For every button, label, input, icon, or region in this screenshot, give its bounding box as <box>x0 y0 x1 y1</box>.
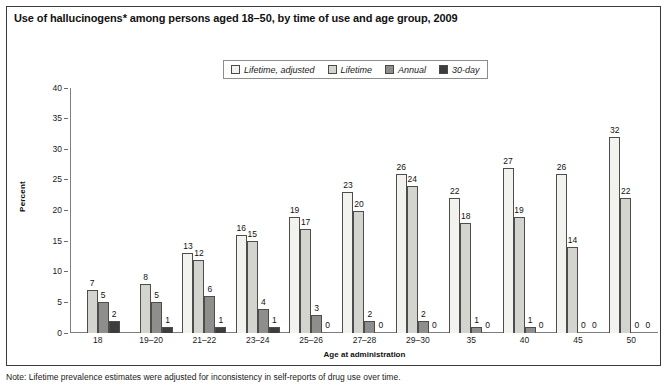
y-tick-mark <box>64 271 68 272</box>
bar-group: 261400 <box>551 88 604 333</box>
bar[interactable]: 20 <box>353 211 364 334</box>
bar-value-label: 15 <box>248 230 257 239</box>
bar-value-label: 1 <box>272 316 277 325</box>
bar[interactable]: 2 <box>418 321 429 333</box>
bar[interactable]: 26 <box>396 174 407 333</box>
x-tick-label: 45 <box>551 335 604 345</box>
chart-footnote: Note: Lifetime prevalence estimates were… <box>6 372 656 383</box>
bar[interactable]: 24 <box>407 186 418 333</box>
bar[interactable]: 15 <box>247 241 258 333</box>
x-tick-label: 40 <box>498 335 551 345</box>
bar-value-label: 18 <box>461 212 470 221</box>
bar-value-label: 23 <box>343 181 352 190</box>
bar-value-label: 24 <box>408 175 417 184</box>
y-axis-title: Percent <box>18 167 27 227</box>
chart-legend: Lifetime, adjustedLifetimeAnnual30-day <box>223 60 488 79</box>
bar[interactable]: 19 <box>289 217 300 333</box>
bar[interactable]: 5 <box>98 302 109 333</box>
bar[interactable]: 19 <box>514 217 525 333</box>
bar-group: 131261 <box>178 88 231 333</box>
bar-value-label: 16 <box>237 224 246 233</box>
x-tick-label: 25–26 <box>284 335 337 345</box>
x-axis-title: Age at administration <box>71 350 658 359</box>
bar-group: 161541 <box>231 88 284 333</box>
bar-group: 191730 <box>284 88 337 333</box>
bar-value-label: 20 <box>354 200 363 209</box>
bar[interactable]: 5 <box>151 302 162 333</box>
bar[interactable]: 8 <box>140 284 151 333</box>
bar-value-label: 0 <box>645 321 650 330</box>
bar-value-label: 1 <box>219 316 224 325</box>
x-axis-tick-labels: 1819–2021–2223–2425–2627–2829–3035404550 <box>71 335 658 345</box>
bar-value-label: 19 <box>514 206 523 215</box>
y-tick-mark <box>64 118 68 119</box>
bar-value-label: 7 <box>90 279 95 288</box>
bar-group: 322200 <box>605 88 658 333</box>
y-tick-label: 35 <box>53 114 62 123</box>
bar[interactable]: 6 <box>204 296 215 333</box>
bar-value-label: 2 <box>112 310 117 319</box>
legend-swatch-icon <box>439 65 448 74</box>
y-tick-mark <box>64 241 68 242</box>
y-tick-mark <box>64 210 68 211</box>
bar[interactable]: 13 <box>182 253 193 333</box>
y-tick-label: 0 <box>57 329 62 338</box>
bar-value-label: 1 <box>165 316 170 325</box>
bar-value-label: 13 <box>183 242 192 251</box>
bar[interactable]: 1 <box>162 327 173 333</box>
bar-value-label: 0 <box>485 321 490 330</box>
bar-value-label: 0 <box>539 321 544 330</box>
bar-value-label: 2 <box>421 310 426 319</box>
bar[interactable]: 4 <box>258 309 269 334</box>
bar-value-label: 0 <box>592 321 597 330</box>
legend-label: 30-day <box>452 65 480 75</box>
bar[interactable]: 1 <box>269 327 280 333</box>
y-axis-tick: 5 <box>28 297 68 307</box>
legend-item: Lifetime <box>328 65 373 75</box>
bar[interactable]: 27 <box>503 168 514 333</box>
bar[interactable]: 3 <box>311 315 322 333</box>
bar-value-label: 1 <box>474 316 479 325</box>
bar[interactable]: 32 <box>609 137 620 333</box>
bar-groups: 7528511312611615411917302320202624202218… <box>71 88 658 333</box>
y-axis-ticks: 4035302520151050 <box>28 88 68 333</box>
legend-swatch-icon <box>231 65 240 74</box>
y-axis-tick: 15 <box>28 236 68 246</box>
legend-label: Lifetime, adjusted <box>244 65 315 75</box>
bar-value-label: 3 <box>314 304 319 313</box>
y-tick-mark <box>64 333 68 334</box>
bar[interactable]: 7 <box>87 290 98 333</box>
y-axis-tick: 10 <box>28 267 68 277</box>
x-tick-label: 23–24 <box>231 335 284 345</box>
x-tick-label: 29–30 <box>391 335 444 345</box>
bar[interactable]: 22 <box>449 198 460 333</box>
bar[interactable]: 18 <box>460 223 471 333</box>
x-tick-label: 50 <box>605 335 658 345</box>
bar[interactable]: 1 <box>525 327 536 333</box>
bar[interactable]: 14 <box>567 247 578 333</box>
x-tick-label: 21–22 <box>178 335 231 345</box>
y-axis-tick: 40 <box>28 83 68 93</box>
y-tick-mark <box>64 149 68 150</box>
legend-item: Annual <box>385 65 426 75</box>
bar[interactable]: 12 <box>193 260 204 334</box>
bar[interactable]: 22 <box>620 198 631 333</box>
bar-group: 851 <box>124 88 177 333</box>
bar[interactable]: 17 <box>300 229 311 333</box>
bar-value-label: 0 <box>581 321 586 330</box>
bar-value-label: 4 <box>261 298 266 307</box>
x-tick-label: 35 <box>445 335 498 345</box>
y-tick-label: 5 <box>57 298 62 307</box>
bar[interactable]: 1 <box>471 327 482 333</box>
y-tick-label: 25 <box>53 175 62 184</box>
bar-value-label: 0 <box>379 321 384 330</box>
bar[interactable]: 1 <box>215 327 226 333</box>
y-axis-tick: 30 <box>28 144 68 154</box>
bar[interactable]: 23 <box>342 192 353 333</box>
bar[interactable]: 2 <box>364 321 375 333</box>
x-tick-label: 27–28 <box>338 335 391 345</box>
bar[interactable]: 26 <box>556 174 567 333</box>
bar[interactable]: 2 <box>109 321 120 333</box>
y-tick-mark <box>64 302 68 303</box>
bar[interactable]: 16 <box>236 235 247 333</box>
